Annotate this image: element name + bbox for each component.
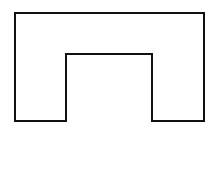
inverted-u-outline (15, 13, 204, 121)
inverted-u-diagram (0, 0, 214, 178)
diagram-canvas (0, 0, 214, 178)
